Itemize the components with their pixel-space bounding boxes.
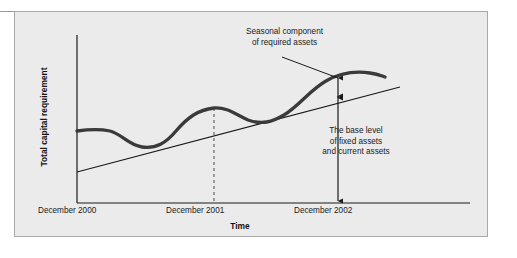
y-axis-title: Total capital requirement xyxy=(39,42,49,192)
annotation-base-line-2: of fixed assets xyxy=(286,137,426,148)
figure-page: Seasonal component of required assets Th… xyxy=(0,0,517,258)
annotation-seasonal-line-2: of required assets xyxy=(212,38,357,49)
x-tick-label-december-2000: December 2000 xyxy=(38,206,96,215)
annotation-seasonal-component: Seasonal component of required assets xyxy=(212,27,357,48)
annotation-base-line-1: The base level xyxy=(286,126,426,137)
x-tick-label-december-2002: December 2002 xyxy=(294,206,352,215)
annotation-base-level: The base level of fixed assets and curre… xyxy=(286,126,426,158)
seasonal-leader-line xyxy=(282,57,338,78)
annotation-base-line-3: and current assets xyxy=(286,147,426,158)
annotation-seasonal-line-1: Seasonal component xyxy=(212,27,357,38)
x-tick-label-december-2001: December 2001 xyxy=(166,206,224,215)
x-axis-title: Time xyxy=(180,221,300,231)
